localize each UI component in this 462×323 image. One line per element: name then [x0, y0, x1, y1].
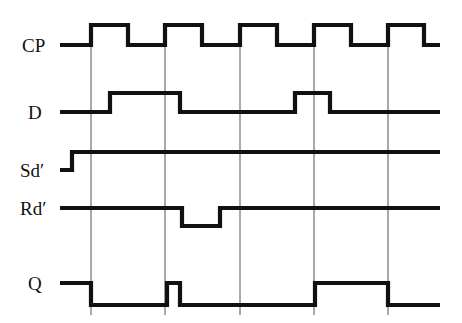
diagram-background	[0, 0, 462, 323]
signal-label-q: Q	[28, 273, 42, 294]
signal-label-rd: Rd′	[20, 198, 46, 219]
signal-label-cp: CP	[22, 35, 45, 56]
signal-label-sd: Sd′	[20, 160, 44, 181]
timing-diagram-svg: CPDSd′Rd′Q	[0, 0, 462, 323]
signal-label-d: D	[28, 102, 42, 123]
timing-diagram-canvas: CPDSd′Rd′Q	[0, 0, 462, 323]
